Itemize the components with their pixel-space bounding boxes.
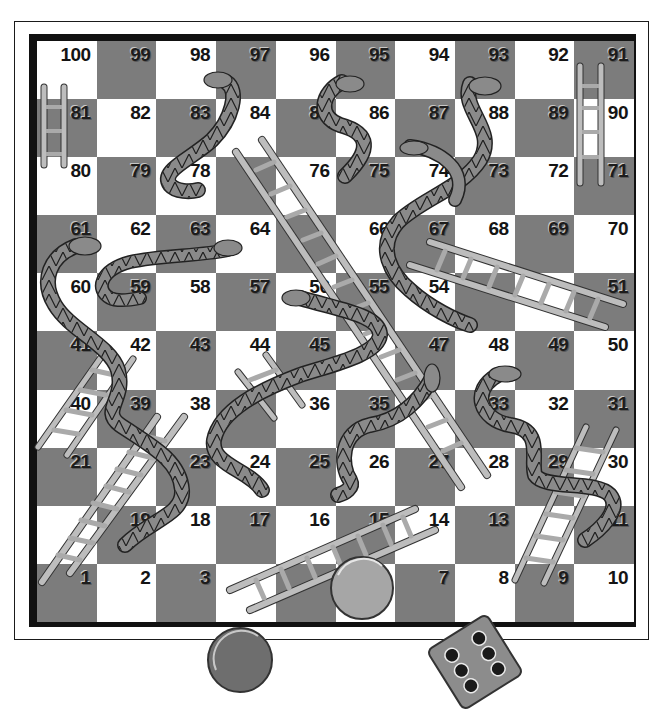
board-square-65[interactable]: [276, 215, 336, 273]
board-square-30[interactable]: 30: [574, 448, 634, 506]
board-square-91[interactable]: 91: [574, 41, 634, 99]
board-square-97[interactable]: 97: [216, 41, 276, 99]
board-square-86[interactable]: 86: [336, 99, 396, 157]
board-square-68[interactable]: 68: [455, 215, 515, 273]
board-square-54[interactable]: 54: [395, 273, 455, 331]
board-square-32[interactable]: 32: [515, 390, 575, 448]
board-square-48[interactable]: 48: [455, 331, 515, 389]
board-square-71[interactable]: 71: [574, 157, 634, 215]
board-square-94[interactable]: 94: [395, 41, 455, 99]
board-square-62[interactable]: 62: [97, 215, 157, 273]
board-square-80[interactable]: 80: [37, 157, 97, 215]
board-square-42[interactable]: 42: [97, 331, 157, 389]
board-square-95[interactable]: 95: [336, 41, 396, 99]
board-square-16[interactable]: 16: [276, 506, 336, 564]
board-square-76[interactable]: 76: [276, 157, 336, 215]
board-square-83[interactable]: 83: [156, 99, 216, 157]
board-square-41[interactable]: 41: [37, 331, 97, 389]
board-square-73[interactable]: 73: [455, 157, 515, 215]
board-square-84[interactable]: 84: [216, 99, 276, 157]
board-square-28[interactable]: 28: [455, 448, 515, 506]
board-square-93[interactable]: 93: [455, 41, 515, 99]
board-square-23[interactable]: 23: [156, 448, 216, 506]
board-square-56[interactable]: 56: [276, 273, 336, 331]
board-square-74[interactable]: 74: [395, 157, 455, 215]
board-square-24[interactable]: 24: [216, 448, 276, 506]
board-square-64[interactable]: 64: [216, 215, 276, 273]
board-square-14[interactable]: 14: [395, 506, 455, 564]
board-square-44[interactable]: 44: [216, 331, 276, 389]
board-square-78[interactable]: 78: [156, 157, 216, 215]
board-square-77[interactable]: [216, 157, 276, 215]
board-square-25[interactable]: 25: [276, 448, 336, 506]
board-square-1[interactable]: 1: [37, 564, 97, 622]
board-square-82[interactable]: 82: [97, 99, 157, 157]
board-square-29[interactable]: 29: [515, 448, 575, 506]
board-square-38[interactable]: 38: [156, 390, 216, 448]
board-square-70[interactable]: 70: [574, 215, 634, 273]
board-square-67[interactable]: 67: [395, 215, 455, 273]
board-square-27[interactable]: 27: [395, 448, 455, 506]
board-square-39[interactable]: 39: [97, 390, 157, 448]
board-square-8[interactable]: 8: [455, 564, 515, 622]
board-square-88[interactable]: 88: [455, 99, 515, 157]
board-square-63[interactable]: 63: [156, 215, 216, 273]
board-square-9[interactable]: 9: [515, 564, 575, 622]
board-square-40[interactable]: 40: [37, 390, 97, 448]
board-square-36[interactable]: 36: [276, 390, 336, 448]
board-square-7[interactable]: 7: [395, 564, 455, 622]
board-square-10[interactable]: 10: [574, 564, 634, 622]
board-square-45[interactable]: 45: [276, 331, 336, 389]
board-square-15[interactable]: 15: [336, 506, 396, 564]
board-square-21[interactable]: 21: [37, 448, 97, 506]
board-square-20[interactable]: [37, 506, 97, 564]
board-square-90[interactable]: 90: [574, 99, 634, 157]
board-square-85[interactable]: 85: [276, 99, 336, 157]
board-square-96[interactable]: 96: [276, 41, 336, 99]
board-square-22[interactable]: [97, 448, 157, 506]
board-square-3[interactable]: 3: [156, 564, 216, 622]
board-square-66[interactable]: 66: [336, 215, 396, 273]
board-square-37[interactable]: [216, 390, 276, 448]
board-square-11[interactable]: 11: [574, 506, 634, 564]
board-square-89[interactable]: 89: [515, 99, 575, 157]
board-square-92[interactable]: 92: [515, 41, 575, 99]
board-square-4[interactable]: [216, 564, 276, 622]
board-square-75[interactable]: 75: [336, 157, 396, 215]
board-square-57[interactable]: 57: [216, 273, 276, 331]
board-square-100[interactable]: 100: [37, 41, 97, 99]
board-square-87[interactable]: 87: [395, 99, 455, 157]
board-square-61[interactable]: 61: [37, 215, 97, 273]
board-square-26[interactable]: 26: [336, 448, 396, 506]
board-square-6[interactable]: [336, 564, 396, 622]
board-square-12[interactable]: [515, 506, 575, 564]
board-square-33[interactable]: 33: [455, 390, 515, 448]
board-square-35[interactable]: 35: [336, 390, 396, 448]
board-square-50[interactable]: 50: [574, 331, 634, 389]
board-square-99[interactable]: 99: [97, 41, 157, 99]
board-square-31[interactable]: 31: [574, 390, 634, 448]
board-square-49[interactable]: 49: [515, 331, 575, 389]
board-square-17[interactable]: 17: [216, 506, 276, 564]
board-square-2[interactable]: 2: [97, 564, 157, 622]
board-square-58[interactable]: 58: [156, 273, 216, 331]
board-square-46[interactable]: [336, 331, 396, 389]
board-square-34[interactable]: [395, 390, 455, 448]
board-square-52[interactable]: [515, 273, 575, 331]
board-square-59[interactable]: 59: [97, 273, 157, 331]
board-square-60[interactable]: 60: [37, 273, 97, 331]
board-square-79[interactable]: 79: [97, 157, 157, 215]
board-square-43[interactable]: 43: [156, 331, 216, 389]
board-square-18[interactable]: 18: [156, 506, 216, 564]
board-square-47[interactable]: 47: [395, 331, 455, 389]
board-square-13[interactable]: 13: [455, 506, 515, 564]
board-square-69[interactable]: 69: [515, 215, 575, 273]
board-square-19[interactable]: 19: [97, 506, 157, 564]
board-square-72[interactable]: 72: [515, 157, 575, 215]
board-square-81[interactable]: 81: [37, 99, 97, 157]
board-square-53[interactable]: [455, 273, 515, 331]
board-square-55[interactable]: 55: [336, 273, 396, 331]
board-square-51[interactable]: 51: [574, 273, 634, 331]
board-square-5[interactable]: [276, 564, 336, 622]
board-square-98[interactable]: 98: [156, 41, 216, 99]
